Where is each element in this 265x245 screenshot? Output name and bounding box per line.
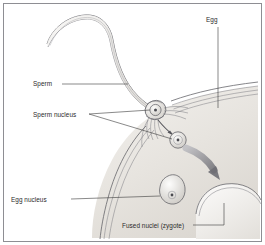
fertilization-figure: Egg Sperm Sperm nucleus Egg nucleus Fuse… [0,0,265,245]
label-sperm: Sperm [33,80,52,88]
label-egg: Egg [206,16,218,24]
label-sperm-nucleus: Sperm nucleus [33,111,76,119]
egg-nucleus [160,175,186,204]
fertilization-diagram: Egg Sperm Sperm nucleus Egg nucleus Fuse… [0,0,265,245]
label-fused-nuclei: Fused nuclei (zygote) [122,222,184,230]
label-egg-nucleus: Egg nucleus [11,196,47,204]
sperm-tail [47,15,156,114]
